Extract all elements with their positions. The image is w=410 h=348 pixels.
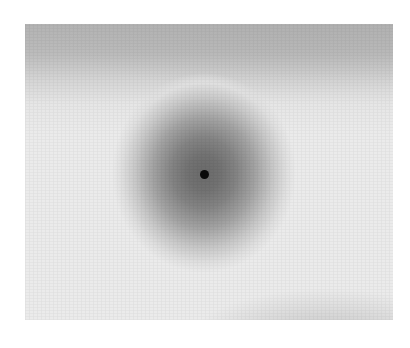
figure-image (25, 24, 393, 320)
center-dot (200, 170, 209, 179)
figure-caption (25, 328, 393, 342)
scan-noise (25, 24, 393, 320)
